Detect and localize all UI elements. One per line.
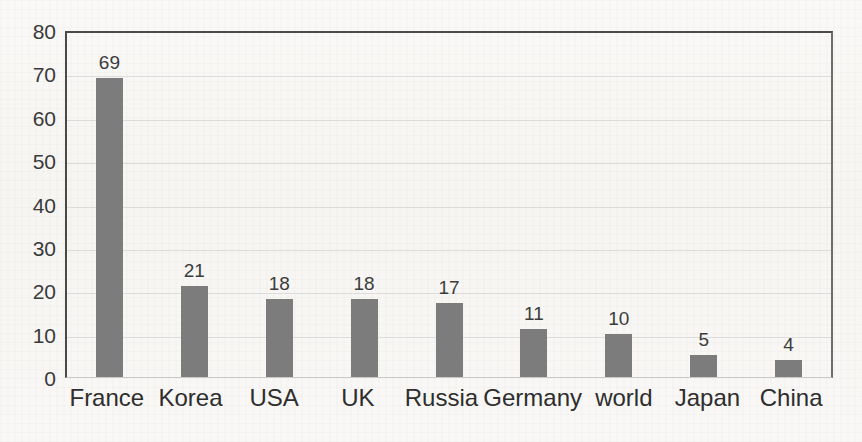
x-axis-category-label: USA: [232, 386, 316, 410]
bar-slot: 69: [67, 33, 152, 377]
bar-value-label: 21: [184, 261, 205, 280]
bar[interactable]: 4: [775, 360, 802, 377]
y-axis-tick-label: 80: [12, 21, 56, 42]
bar-value-label: 10: [608, 309, 629, 328]
bar-value-label: 69: [99, 53, 120, 72]
y-axis-tick-label: 50: [12, 151, 56, 172]
y-axis-tick-label: 20: [12, 281, 56, 302]
bar-value-label: 11: [524, 304, 544, 323]
bar-slot: 11: [491, 33, 576, 377]
bar-value-label: 18: [354, 274, 375, 293]
bar[interactable]: 69: [96, 78, 123, 377]
x-axis-category-label: Korea: [149, 386, 233, 410]
bar-slot: 18: [322, 33, 407, 377]
bar-slot: 18: [237, 33, 322, 377]
x-axis: FranceKoreaUSAUKRussiaGermanyworldJapanC…: [65, 386, 833, 410]
bar-value-label: 18: [269, 274, 290, 293]
x-axis-category-label: China: [749, 386, 833, 410]
bar[interactable]: 10: [605, 334, 632, 377]
y-axis-tick-label: 0: [12, 368, 56, 389]
x-axis-category-label: world: [582, 386, 666, 410]
x-axis-category-label: France: [65, 386, 149, 410]
y-axis-tick-label: 30: [12, 237, 56, 258]
bar[interactable]: 5: [690, 355, 717, 377]
bar-slot: 5: [661, 33, 746, 377]
bar-value-label: 17: [438, 278, 459, 297]
x-axis-category-label: Germany: [483, 386, 582, 410]
x-axis-category-label: Russia: [400, 386, 484, 410]
bar-value-label: 5: [698, 330, 709, 349]
bar-value-label: 4: [783, 335, 794, 354]
bar[interactable]: 18: [266, 299, 293, 377]
x-axis-category-label: UK: [316, 386, 400, 410]
bar-slot: 21: [152, 33, 237, 377]
bar-chart: 80706050403020100 6921181817111054 Franc…: [0, 0, 862, 442]
bar[interactable]: 18: [351, 299, 378, 377]
y-axis: 80706050403020100: [8, 0, 56, 442]
bar[interactable]: 17: [436, 303, 463, 377]
y-axis-tick-label: 40: [12, 194, 56, 215]
bar-series: 6921181817111054: [67, 33, 831, 377]
bar-slot: 10: [576, 33, 661, 377]
bar[interactable]: 21: [181, 286, 208, 377]
x-axis-category-label: Japan: [666, 386, 750, 410]
bar-slot: 17: [407, 33, 492, 377]
y-axis-tick-label: 70: [12, 64, 56, 85]
bar[interactable]: 11: [520, 329, 547, 377]
y-axis-tick-label: 60: [12, 107, 56, 128]
plot-area: 6921181817111054: [65, 31, 833, 378]
y-axis-tick-label: 10: [12, 324, 56, 345]
bar-slot: 4: [746, 33, 831, 377]
